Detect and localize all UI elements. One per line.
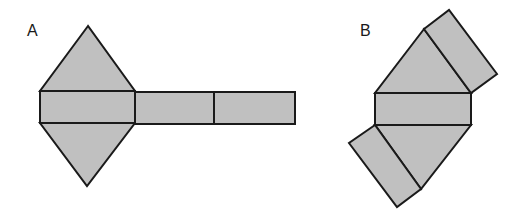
figure-a-rect-2 (135, 92, 214, 124)
figure-b-net (349, 10, 497, 207)
figure-b-center-rect (375, 93, 471, 125)
figure-a-net (40, 26, 295, 186)
figure-a-top-triangle (40, 26, 135, 91)
figure-a-rect-3 (214, 92, 295, 124)
diagram-canvas (0, 0, 525, 211)
figure-a-bottom-triangle (40, 123, 135, 186)
figure-a-rect-1 (40, 91, 135, 123)
